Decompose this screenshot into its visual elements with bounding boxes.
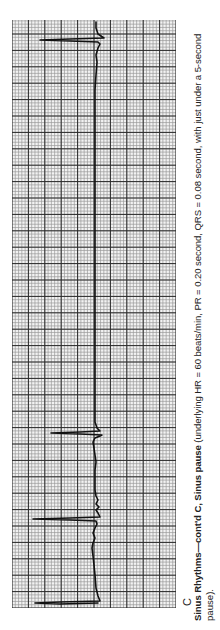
- figure-caption-line-2: pause).: [204, 589, 215, 621]
- ecg-chart: [12, 20, 176, 608]
- caption-body: (underlying HR = 60 beats/min, PR = 0.20…: [192, 34, 203, 446]
- panel-label: C: [181, 598, 193, 606]
- caption-title: Sinus Rhythms—cont'd C, Sinus pause: [192, 445, 203, 621]
- ecg-rhythm-strip: [12, 20, 176, 608]
- figure-caption-line-1: Sinus Rhythms—cont'd C, Sinus pause (und…: [192, 34, 203, 621]
